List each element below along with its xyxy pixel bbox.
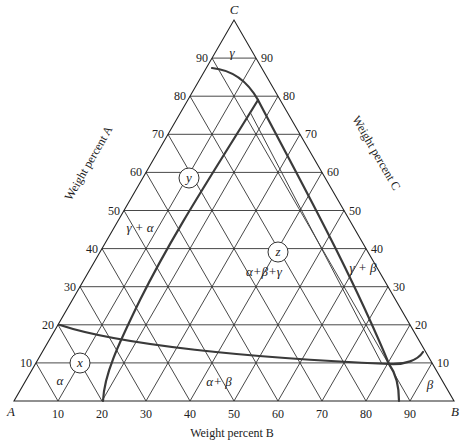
tie-line — [250, 112, 382, 364]
grid-line-b — [234, 211, 344, 402]
left-tick-label: 60 — [130, 165, 142, 179]
bottom-tick-label: 90 — [404, 407, 416, 421]
alpha-beta-boundary — [60, 325, 389, 364]
left-tick-label: 70 — [152, 127, 164, 141]
ternary-phase-diagram: x y z γ α β γ + α γ + β α+β+γ α+ β C A B… — [0, 0, 473, 445]
grid-line-a — [80, 287, 146, 401]
right-tick-label: 30 — [393, 280, 405, 294]
axis-b-title: Weight percent B — [190, 426, 274, 440]
point-y-label: y — [184, 170, 192, 185]
phase-boundaries — [60, 68, 423, 401]
axis-a-title: Weight percent A — [62, 123, 116, 203]
label-gamma-beta: γ + β — [350, 260, 377, 275]
grid-line-a — [36, 363, 58, 401]
right-tick-label: 80 — [283, 89, 295, 103]
grid-lines — [36, 58, 432, 401]
right-tick-label: 20 — [415, 318, 427, 332]
phase-labels: γ α β γ + α γ + β α+β+γ α+ β — [57, 45, 434, 392]
beta-boundary-lower — [389, 364, 399, 401]
axis-c-title: Weight percent C — [349, 113, 403, 192]
bottom-tick-label: 10 — [52, 407, 64, 421]
bottom-tick-label: 50 — [228, 407, 240, 421]
label-gamma-alpha: γ + α — [126, 220, 154, 235]
left-tick-label: 30 — [64, 280, 76, 294]
label-alpha-beta-gamma: α+β+γ — [246, 264, 283, 279]
bottom-tick-label: 70 — [316, 407, 328, 421]
left-tick-label: 10 — [20, 356, 32, 370]
right-tick-label: 60 — [327, 165, 339, 179]
bottom-tick-label: 30 — [140, 407, 152, 421]
left-tick-label: 40 — [86, 242, 98, 256]
bottom-tick-label: 40 — [184, 407, 196, 421]
grid-line-b — [322, 287, 388, 401]
label-alpha-beta: α+ β — [206, 374, 232, 389]
left-tick-label: 80 — [174, 89, 186, 103]
left-tick-label: 90 — [196, 51, 208, 65]
grid-line-b — [58, 58, 256, 401]
right-tick-label: 70 — [305, 127, 317, 141]
right-tick-label: 90 — [261, 51, 273, 65]
grid-line-a — [124, 211, 234, 402]
vertex-c-label: C — [230, 2, 239, 17]
right-tick-label: 40 — [371, 242, 383, 256]
left-tick-label: 20 — [42, 318, 54, 332]
point-x-label: x — [76, 355, 83, 370]
beta-boundary-upper — [389, 352, 423, 364]
bottom-tick-label: 20 — [96, 407, 108, 421]
label-beta: β — [426, 377, 434, 392]
right-tick-label: 10 — [437, 356, 449, 370]
bottom-tick-label: 80 — [360, 407, 372, 421]
grid-line-a — [212, 58, 410, 401]
left-tick-label: 50 — [108, 204, 120, 218]
vertex-b-label: B — [451, 404, 459, 419]
label-alpha: α — [57, 373, 65, 388]
bottom-tick-label: 60 — [272, 407, 284, 421]
vertex-a-label: A — [6, 404, 15, 419]
point-z-label: z — [274, 244, 280, 259]
label-gamma: γ — [229, 45, 235, 60]
right-tick-label: 50 — [349, 204, 361, 218]
